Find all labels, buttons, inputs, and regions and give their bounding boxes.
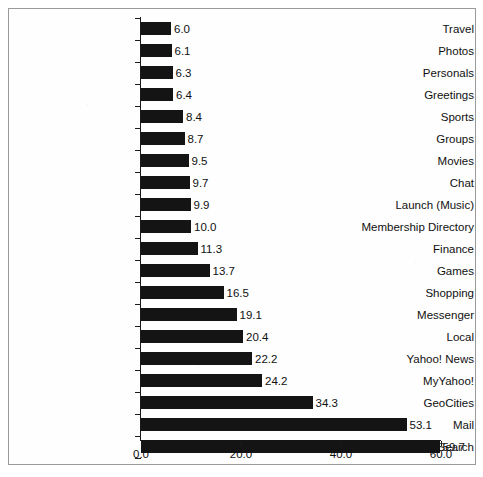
- bar-row: MyYahoo!24.2: [0, 370, 483, 392]
- bar-row: Membership Directory10.0: [0, 216, 483, 238]
- bar-row: Greetings6.4: [0, 84, 483, 106]
- bar: [141, 308, 237, 321]
- y-axis-tick: [135, 84, 141, 85]
- y-axis-tick: [135, 194, 141, 195]
- category-label: Games: [355, 260, 483, 282]
- bar-value-label: 10.0: [191, 216, 216, 238]
- bar-row: Yahoo! News22.2: [0, 348, 483, 370]
- y-axis-tick: [135, 106, 141, 107]
- bar-row: Local20.4: [0, 326, 483, 348]
- category-label: Travel: [355, 18, 483, 40]
- y-axis-tick: [135, 128, 141, 129]
- bar-value-label: 11.3: [198, 238, 223, 260]
- bar-value-label: 13.7: [210, 260, 235, 282]
- x-axis-tick-label: 60.0: [411, 448, 471, 460]
- bar-value-label: 34.3: [313, 392, 338, 414]
- bar-value-label: 6.1: [172, 40, 191, 62]
- y-axis-tick: [135, 392, 141, 393]
- bar: [141, 22, 171, 35]
- bar-row: Travel6.0: [0, 18, 483, 40]
- bar-row: GeoCities34.3: [0, 392, 483, 414]
- x-axis-tick: [241, 441, 242, 446]
- bar-row: Mail53.1: [0, 414, 483, 436]
- bar-chart-plot: Travel6.0Photos6.1Personals6.3Greetings6…: [0, 0, 483, 477]
- category-label: Finance: [355, 238, 483, 260]
- bar-value-label: 53.1: [407, 414, 432, 436]
- category-label: Shopping: [355, 282, 483, 304]
- bar-value-label: 22.2: [252, 348, 277, 370]
- category-label: Photos: [355, 40, 483, 62]
- bar: [141, 264, 210, 277]
- bar-value-label: 9.5: [189, 150, 208, 172]
- category-label: Launch (Music): [355, 194, 483, 216]
- bar-row: Messenger19.1: [0, 304, 483, 326]
- category-label: Movies: [355, 150, 483, 172]
- bar: [141, 440, 440, 453]
- bar-row: Sports8.4: [0, 106, 483, 128]
- bar-row: Personals6.3: [0, 62, 483, 84]
- bar: [141, 176, 190, 189]
- y-axis-tick: [135, 282, 141, 283]
- y-axis-tick: [135, 436, 141, 437]
- y-axis-tick: [135, 326, 141, 327]
- bar: [141, 44, 172, 57]
- bar: [141, 330, 243, 343]
- x-axis-tick: [341, 441, 342, 446]
- bar-row: Movies9.5: [0, 150, 483, 172]
- bar-row: Shopping16.5: [0, 282, 483, 304]
- x-axis-tick-label: 20.0: [211, 448, 271, 460]
- y-axis-tick: [135, 62, 141, 63]
- bar-value-label: 8.7: [185, 128, 204, 150]
- x-axis-tick: [441, 441, 442, 446]
- y-axis-tick: [135, 18, 141, 19]
- y-axis-tick: [135, 40, 141, 41]
- bar: [141, 132, 185, 145]
- y-axis-tick: [135, 370, 141, 371]
- bar: [141, 154, 189, 167]
- y-axis-tick: [135, 150, 141, 151]
- bar-value-label: 9.7: [190, 172, 209, 194]
- category-label: Messenger: [355, 304, 483, 326]
- y-axis-tick: [135, 304, 141, 305]
- bar-value-label: 16.5: [224, 282, 249, 304]
- bar: [141, 88, 173, 101]
- category-label: Sports: [355, 106, 483, 128]
- y-axis-tick: [135, 238, 141, 239]
- bar-row: Finance11.3: [0, 238, 483, 260]
- category-label: Chat: [355, 172, 483, 194]
- bar: [141, 396, 313, 409]
- bar: [141, 242, 198, 255]
- bar: [141, 352, 252, 365]
- x-axis-tick: [141, 441, 142, 446]
- bar: [141, 418, 407, 431]
- x-axis-tick-label: 0.0: [111, 448, 171, 460]
- category-label: Greetings: [355, 84, 483, 106]
- bar-value-label: 6.0: [171, 18, 190, 40]
- category-label: MyYahoo!: [355, 370, 483, 392]
- y-axis-tick: [135, 216, 141, 217]
- bar: [141, 198, 191, 211]
- bar-row: Launch (Music)9.9: [0, 194, 483, 216]
- bar-value-label: 6.4: [173, 84, 192, 106]
- bar-row: Photos6.1: [0, 40, 483, 62]
- bar-value-label: 8.4: [183, 106, 202, 128]
- bar-value-label: 20.4: [243, 326, 268, 348]
- bar: [141, 286, 224, 299]
- category-label: Local: [355, 326, 483, 348]
- bar-value-label: 6.3: [173, 62, 192, 84]
- bar: [141, 66, 173, 79]
- bar: [141, 374, 262, 387]
- category-label: Personals: [355, 62, 483, 84]
- x-axis-tick-label: 40.0: [311, 448, 371, 460]
- category-label: Groups: [355, 128, 483, 150]
- bar-row: Groups8.7: [0, 128, 483, 150]
- category-label: GeoCities: [355, 392, 483, 414]
- bar-row: Chat9.7: [0, 172, 483, 194]
- y-axis-tick: [135, 348, 141, 349]
- y-axis-tick: [135, 260, 141, 261]
- bar-row: Games13.7: [0, 260, 483, 282]
- bar: [141, 110, 183, 123]
- category-label: Membership Directory: [355, 216, 483, 238]
- category-label: Yahoo! News: [355, 348, 483, 370]
- bar: [141, 220, 191, 233]
